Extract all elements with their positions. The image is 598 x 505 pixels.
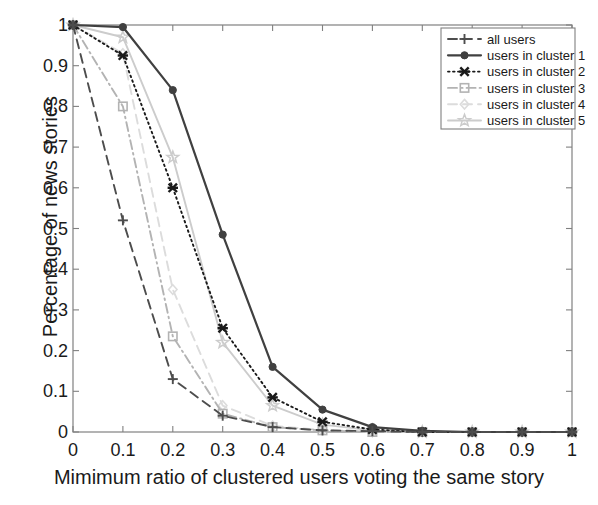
x-axis-title: Mimimum ratio of clustered users voting … [0,466,598,489]
y-tick-label: 0.5 [22,218,68,239]
line-chart-plot: all usersusers in cluster 1users in clus… [0,0,598,505]
data-point-marker-xmark [218,324,228,332]
y-tick-label: 0.3 [22,299,68,320]
y-tick-label: 0.6 [22,177,68,198]
legend-label: users in cluster 4 [487,97,585,112]
y-tick-label: 0.8 [22,96,68,117]
legend-label: users in cluster 3 [487,81,585,96]
data-point-marker-diamond [169,285,177,295]
legend-label: users in cluster 2 [487,64,585,79]
y-tick-label: 0.4 [22,259,68,280]
y-tick-label: 0.7 [22,137,68,158]
data-point-marker-circle [461,52,468,59]
data-point-marker-circle [169,87,176,94]
data-point-marker-circle [119,23,126,30]
chart-legend: all usersusers in cluster 1users in clus… [441,28,585,129]
data-point-marker-circle [269,363,276,370]
legend-label: users in cluster 5 [487,113,585,128]
data-point-marker-circle [319,406,326,413]
y-tick-label: 0.2 [22,340,68,361]
legend-label: users in cluster 1 [487,48,585,63]
y-axis-tick-labels: 00.10.20.30.40.50.60.70.80.91 [14,0,68,505]
y-tick-label: 0.1 [22,381,68,402]
y-tick-label: 0.9 [22,55,68,76]
data-point-marker-xmark [168,184,178,192]
data-point-marker-plus [118,215,128,225]
legend-label: all users [487,32,536,47]
y-tick-label: 1 [22,15,68,36]
data-point-marker-circle [219,231,226,238]
x-tick-label: 1 [542,440,598,461]
x-axis-tick-labels: 00.10.20.30.40.50.60.70.80.91 [0,440,598,468]
chart-figure: all usersusers in cluster 1users in clus… [0,0,598,505]
data-point-marker-plus [168,374,178,384]
